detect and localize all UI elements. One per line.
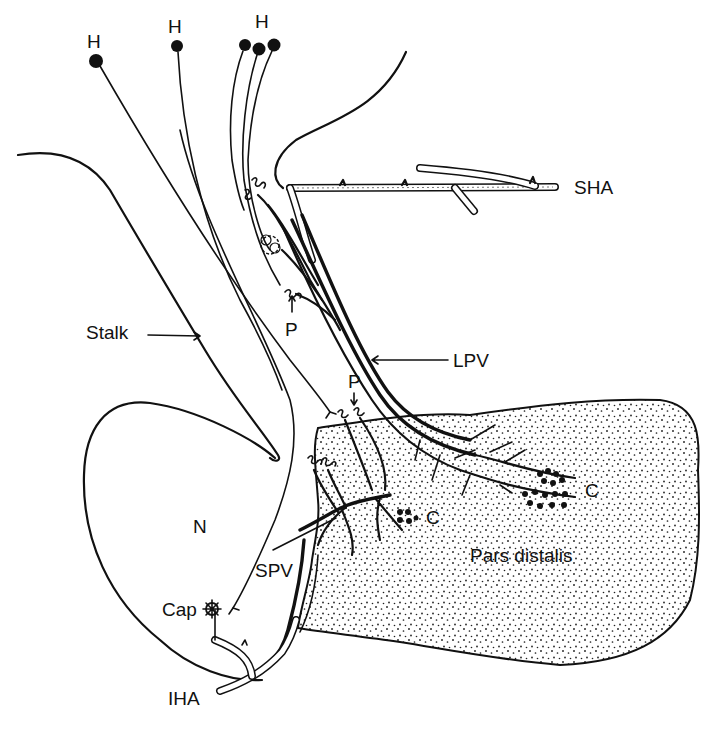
label-p-lower: P [348,371,361,392]
label-n: N [193,516,207,537]
neural-lobe-outline [84,402,275,680]
label-iha: IHA [168,688,200,709]
neuron-h-right-2 [253,43,266,56]
label-spv: SPV [255,560,293,581]
label-sha: SHA [574,177,613,198]
label-h-left: H [87,31,101,52]
superior-hypophyseal-artery [290,168,555,260]
label-p-upper: P [285,319,298,340]
pituitary-portal-diagram: H H H SHA Stalk P LPV P N C C SPV Pars d… [0,0,723,729]
median-eminence-outline [275,52,406,188]
capillary-cap-glyph [203,600,221,618]
pars-distalis-region [298,400,699,665]
neuron-h-right-1 [239,39,251,51]
neuron-h-middle [171,40,183,52]
neuron-h-right-3 [268,39,281,52]
label-h-middle: H [168,16,182,37]
neuron-h-left [89,54,103,68]
label-c-left: C [426,507,440,528]
label-pars-distalis: Pars distalis [470,545,572,566]
label-cap: Cap [162,599,197,620]
label-h-right: H [255,11,269,32]
inferior-hypophyseal-artery [215,610,296,691]
neuron-cell-bodies [89,39,281,69]
label-lpv: LPV [453,350,489,371]
short-portal-vessel [270,540,318,662]
label-stalk: Stalk [86,322,129,343]
label-c-right: C [585,480,599,501]
